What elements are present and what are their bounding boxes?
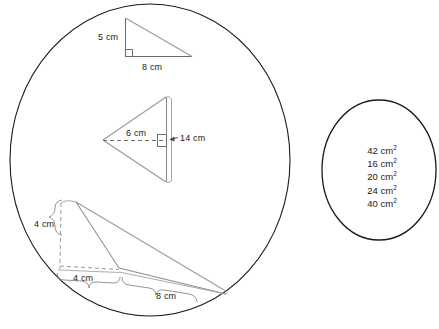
- answer-options-list: 42 cm2 16 cm2 20 cm2 24 cm2 40 cm2: [352, 144, 412, 210]
- triangle-3-offset-label: 4 cm: [73, 273, 93, 283]
- answer-exponent: 2: [393, 197, 397, 204]
- answer-value: 42: [367, 145, 378, 156]
- answer-option[interactable]: 20 cm2: [352, 170, 412, 183]
- triangle-3-apex-cap: [61, 201, 76, 203]
- answer-unit: cm: [380, 198, 393, 209]
- worksheet-page: 5 cm 8 cm 6 cm 14 cm 4 cm 4 cm 8 cm 42 c…: [0, 0, 439, 329]
- answer-exponent: 2: [393, 144, 397, 151]
- triangle-2-side-label: 14 cm: [180, 133, 206, 143]
- answer-unit: cm: [380, 158, 393, 169]
- triangle-3-height-dashed: [60, 203, 61, 268]
- answer-option[interactable]: 40 cm2: [352, 197, 412, 210]
- answer-unit: cm: [380, 145, 393, 156]
- triangle-3-base-extension-dashed: [60, 266, 119, 270]
- triangle-3-base-label: 8 cm: [156, 291, 176, 301]
- answer-option[interactable]: 42 cm2: [352, 144, 412, 157]
- answer-unit: cm: [380, 171, 393, 182]
- answer-option[interactable]: 16 cm2: [352, 157, 412, 170]
- answer-unit: cm: [380, 185, 393, 196]
- shapes-ellipse: [10, 4, 290, 316]
- triangle-3: [49, 200, 227, 302]
- answer-option[interactable]: 24 cm2: [352, 184, 412, 197]
- answer-value: 16: [367, 158, 378, 169]
- triangle-2: [103, 97, 178, 183]
- triangle-1-right-angle-icon: [126, 50, 133, 57]
- triangle-2-depth-cap-top: [167, 97, 172, 99]
- triangle-1-hypotenuse: [126, 18, 193, 57]
- triangle-3-left-cap-bottom: [59, 268, 61, 271]
- triangle-1-base-label: 8 cm: [142, 62, 162, 72]
- triangle-1: [125, 18, 192, 57]
- triangle-3-top-long-edge: [76, 202, 224, 290]
- triangle-3-left-edge: [76, 202, 119, 268]
- answer-value: 20: [367, 171, 378, 182]
- triangle-2-lower-side: [103, 140, 166, 182]
- triangle-2-depth-cap-bottom: [167, 181, 172, 183]
- triangle-1-height-label: 5 cm: [98, 32, 118, 42]
- triangle-3-height-brace: [49, 200, 62, 235]
- answer-value: 24: [367, 185, 378, 196]
- answer-exponent: 2: [393, 157, 397, 164]
- answer-exponent: 2: [393, 170, 397, 177]
- answer-value: 40: [367, 198, 378, 209]
- triangle-2-height-label: 6 cm: [126, 128, 146, 138]
- triangle-3-height-label: 4 cm: [34, 219, 54, 229]
- answer-exponent: 2: [393, 183, 397, 190]
